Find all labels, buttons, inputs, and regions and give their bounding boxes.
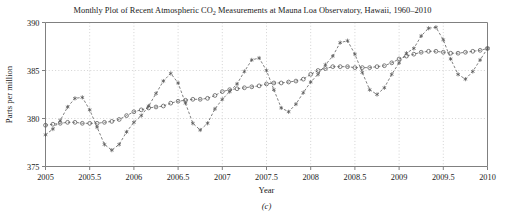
data-point-seasonal [88, 108, 92, 112]
x-tick-label: 2006.5 [167, 173, 190, 182]
x-tick-label: 2010 [479, 173, 496, 182]
data-point-seasonal [456, 72, 460, 76]
data-point-seasonal [81, 95, 85, 99]
x-tick-label: 2006 [126, 173, 143, 182]
data-point-seasonal [353, 52, 357, 56]
data-point-seasonal [309, 80, 313, 84]
data-point-seasonal [287, 110, 291, 114]
data-point-seasonal [368, 88, 372, 92]
x-axis-title: Year [259, 185, 275, 195]
data-point-seasonal [243, 69, 247, 73]
data-point-trend [169, 101, 173, 105]
data-series-layer [44, 25, 490, 152]
data-point-seasonal [95, 125, 99, 129]
data-point-seasonal [235, 82, 239, 86]
data-point-trend [161, 104, 165, 108]
data-point-seasonal [412, 46, 416, 50]
figure-container: Monthly Plot of Recent Atmospheric CO2 M… [0, 0, 505, 218]
gridlines [46, 23, 488, 167]
data-point-seasonal [338, 41, 342, 45]
data-point-trend [206, 96, 210, 100]
data-point-seasonal [383, 86, 387, 90]
data-point-seasonal [103, 142, 107, 146]
data-point-seasonal [272, 88, 276, 92]
x-tick-label: 2007.5 [255, 173, 278, 182]
y-axis-title: Parts per million [4, 65, 14, 123]
x-tick-label: 2009.5 [432, 173, 455, 182]
data-point-trend [213, 94, 217, 98]
figure-caption: (c) [262, 201, 272, 211]
axis-ticks: 37538038539020052005.520062006.520072007… [27, 19, 496, 182]
data-point-seasonal [265, 68, 269, 72]
x-tick-label: 2005.5 [78, 173, 101, 182]
data-point-seasonal [162, 79, 166, 83]
y-tick-label: 385 [27, 67, 39, 76]
data-point-seasonal [449, 57, 453, 61]
data-point-seasonal [346, 39, 350, 43]
data-point-seasonal [206, 121, 210, 125]
x-tick-label: 2008.5 [343, 173, 366, 182]
x-tick-label: 2007 [214, 173, 231, 182]
y-tick-label: 390 [27, 19, 39, 28]
data-point-seasonal [176, 81, 180, 85]
chart-plot: 37538038539020052005.520062006.520072007… [0, 0, 505, 218]
x-tick-label: 2009 [391, 173, 408, 182]
data-point-seasonal [360, 70, 364, 74]
x-tick-label: 2005 [37, 173, 54, 182]
x-tick-label: 2008 [302, 173, 319, 182]
y-tick-label: 375 [27, 163, 39, 172]
y-tick-label: 380 [27, 115, 39, 124]
data-point-seasonal [279, 106, 283, 110]
